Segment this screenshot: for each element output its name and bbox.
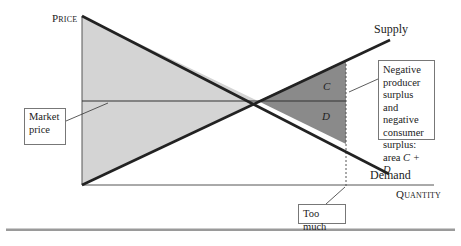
market-price-callout: Market price [24,108,66,145]
negative-surplus-line: producer [383,77,430,90]
market-price-line1: Market [29,111,61,124]
area-d [258,101,346,144]
y-axis-label: Price [52,12,77,24]
negative-surplus-line: consumer [383,127,430,140]
negative-surplus-line: Negative [383,64,430,77]
negative-surplus-formula-line: area C + D [383,152,430,177]
too-much-leader [326,187,345,204]
market-price-line2: price [29,124,61,137]
too-much-callout: Too much [298,204,346,224]
area-d-label: D [322,110,330,122]
supply-label: Supply [374,22,408,37]
area-c-label: C [323,80,330,92]
formula-prefix: area [383,152,403,163]
negative-surplus-callout: Negative producer surplus and negative c… [378,60,435,140]
bottom-rule [6,229,455,232]
negative-surplus-line: surplus: [383,139,430,152]
negative-surplus-line: negative [383,114,430,127]
negative-surplus-line: surplus and [383,89,430,114]
x-axis-label: Quantity [396,188,441,200]
negative-surplus-leader [349,79,378,92]
